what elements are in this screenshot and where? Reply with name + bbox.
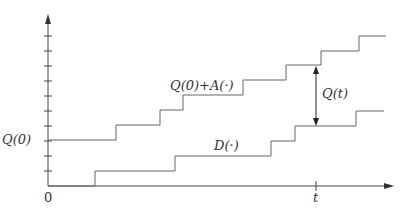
qt-arrow-down-icon: [313, 118, 319, 126]
y-axis-arrow-icon: [45, 14, 51, 24]
arrivals-label: Q(0)+A(·): [170, 78, 234, 93]
origin-label: 0: [44, 190, 52, 205]
q0-label: Q(0): [2, 132, 31, 147]
qt-label: Q(t): [322, 86, 348, 101]
qt-arrow-up-icon: [313, 66, 319, 74]
departures-label: D(·): [214, 138, 239, 153]
x-axis-arrow-icon: [384, 183, 394, 189]
queue-diagram: [0, 0, 412, 216]
t-label: t: [313, 190, 318, 205]
